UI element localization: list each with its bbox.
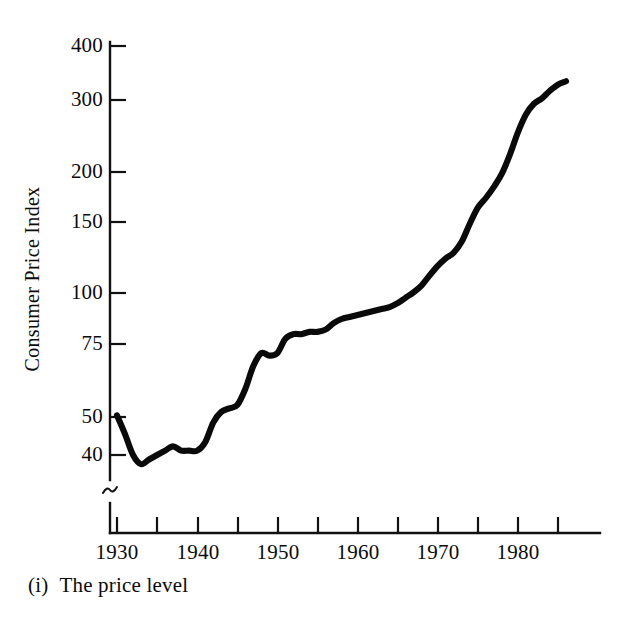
- caption-index: (i): [28, 573, 48, 597]
- y-tick-marks: [110, 46, 126, 455]
- y-axis-title: Consumer Price Index: [21, 149, 43, 409]
- y-axis-break-squiggle: [103, 487, 117, 493]
- y-tick-label: 50: [82, 406, 103, 427]
- figure-caption: (i)The price level: [28, 573, 188, 597]
- y-tick-label: 300: [71, 89, 103, 110]
- y-tick-label: 150: [71, 211, 103, 232]
- figure-container: 400300200150100755040 193019401950196019…: [0, 0, 635, 619]
- x-tick-label: 1970: [417, 541, 460, 564]
- y-tick-label: 75: [82, 333, 103, 354]
- y-tick-label: 40: [82, 444, 103, 465]
- price-level-line-series: [117, 81, 566, 464]
- x-tick-label: 1940: [177, 541, 220, 564]
- caption-text: The price level: [59, 573, 188, 597]
- y-tick-label: 200: [71, 161, 103, 182]
- y-tick-label: 100: [71, 282, 103, 303]
- y-tick-label: 400: [71, 35, 103, 56]
- x-tick-label: 1950: [257, 541, 300, 564]
- x-tick-marks: [117, 517, 558, 533]
- x-tick-label: 1980: [497, 541, 540, 564]
- x-tick-label: 1930: [96, 541, 139, 564]
- x-tick-label: 1960: [337, 541, 380, 564]
